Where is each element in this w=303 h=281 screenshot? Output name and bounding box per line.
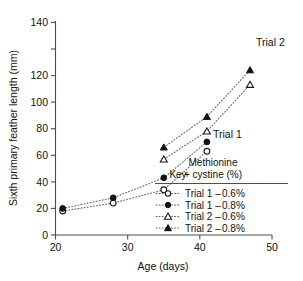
- data-point: [204, 139, 210, 145]
- legend-item-trial1-0.6: Trial 1 – 0.6%: [156, 188, 245, 199]
- data-point: [161, 175, 167, 181]
- legend-value: 0.8%: [222, 200, 245, 211]
- legend-item-trial1-0.8: Trial 1 – 0.8%: [156, 200, 245, 211]
- legend-item-trial2-0.6: Trial 2 – 0.6%: [156, 211, 245, 222]
- y-tick-label-40: 40: [36, 176, 48, 188]
- annotation-trial-1: Trial 1: [213, 128, 242, 140]
- y-tick-label-140: 140: [30, 16, 48, 28]
- legend-label: Trial 2 –: [185, 223, 221, 234]
- y-tick-label-120: 120: [30, 69, 48, 81]
- legend-label: Trial 1 –: [185, 188, 221, 199]
- x-tick-label-20: 20: [50, 241, 62, 253]
- y-tick-label-60: 60: [36, 149, 48, 161]
- legend-value-heading-line2: + cystine (%): [184, 169, 242, 180]
- legend-value: 0.6%: [222, 211, 245, 222]
- x-tick-label-30: 30: [122, 241, 134, 253]
- y-tick-label-20: 20: [36, 202, 48, 214]
- y-axis-title: Sixth primary feather length (mm): [7, 50, 19, 206]
- y-tick-label-100: 100: [30, 96, 48, 108]
- data-point: [160, 156, 167, 162]
- data-point: [247, 67, 254, 73]
- legend-value-heading-line1: Methionine: [189, 157, 238, 168]
- annotation-trial-2: Trial 2: [256, 36, 285, 48]
- legend-label: Trial 1 –: [185, 200, 221, 211]
- x-axis-title: Age (days): [138, 260, 189, 272]
- legend-marker-open-circle-icon: [165, 191, 170, 196]
- chart-legend: Methionine Key + cystine (%) Trial 1 – 0…: [155, 157, 288, 234]
- x-tick-label-50: 50: [266, 241, 278, 253]
- legend-value: 0.6%: [222, 188, 245, 199]
- data-point: [204, 148, 210, 154]
- feather-length-scatter-chart: 0 20 40 60 80 100 120 140 20 30 40 50 Ag…: [0, 0, 303, 281]
- legend-item-trial2-0.8: Trial 2 – 0.8%: [156, 223, 245, 234]
- y-tick-label-80: 80: [36, 122, 48, 134]
- data-point: [60, 206, 66, 212]
- y-axis-ticks: [51, 22, 56, 235]
- legend-label: Trial 2 –: [185, 211, 221, 222]
- data-point: [160, 144, 167, 150]
- legend-marker-filled-circle-icon: [165, 202, 170, 207]
- legend-value: 0.8%: [222, 223, 245, 234]
- data-point: [110, 195, 116, 201]
- data-point: [247, 81, 254, 87]
- x-axis-ticks: [56, 235, 273, 240]
- y-tick-label-0: 0: [42, 229, 48, 241]
- data-point: [203, 128, 210, 134]
- chart-container: 0 20 40 60 80 100 120 140 20 30 40 50 Ag…: [0, 0, 303, 281]
- x-tick-label-40: 40: [194, 241, 206, 253]
